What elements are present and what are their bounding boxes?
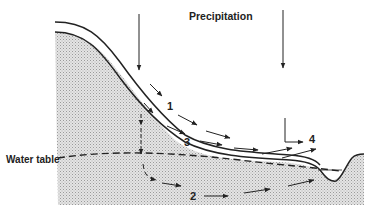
path4-label: 4 — [309, 133, 316, 145]
ground-area — [55, 32, 364, 205]
path1-arrow-c — [206, 131, 230, 138]
hillslope-flow-diagram: Precipitation 1 3 4 2 Water table — [0, 0, 379, 218]
water-table-label: Water table — [6, 154, 60, 165]
precipitation-label: Precipitation — [189, 10, 253, 22]
path3-arrow-d — [234, 148, 258, 150]
path4-bent-arrow — [285, 118, 303, 142]
path1-arrow-a — [150, 84, 162, 96]
path4-arrow-a — [262, 148, 292, 154]
path1-label: 1 — [167, 100, 173, 112]
path1-arrow-b — [178, 115, 197, 125]
path2-label: 2 — [190, 190, 196, 202]
path3-label: 3 — [184, 136, 190, 148]
